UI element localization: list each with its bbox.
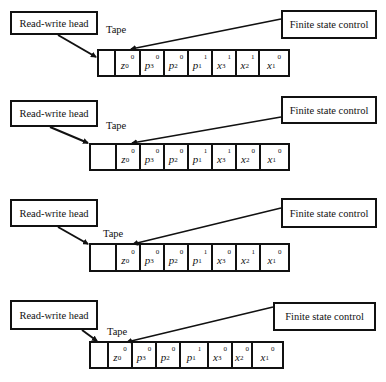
state-control-pointer-arrow bbox=[133, 208, 281, 244]
state-control-pointer-arrow bbox=[131, 19, 281, 49]
head-pointer-arrow bbox=[82, 330, 97, 341]
head-pointer-arrow bbox=[50, 127, 88, 143]
head-pointer-arrow bbox=[58, 35, 96, 57]
arrows-layer bbox=[0, 0, 386, 382]
state-control-pointer-arrow bbox=[132, 117, 281, 143]
head-pointer-arrow bbox=[58, 227, 88, 244]
state-control-pointer-arrow bbox=[127, 307, 273, 342]
